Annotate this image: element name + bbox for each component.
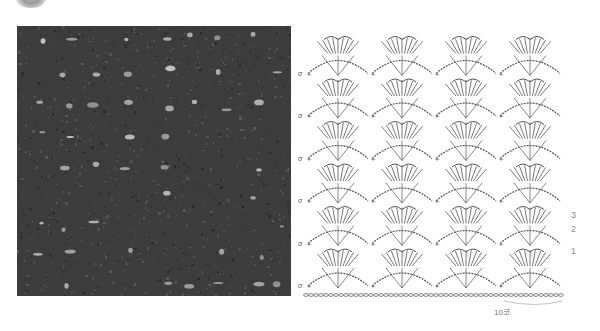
svg-text:σ: σ — [298, 155, 303, 162]
svg-text:σ: σ — [298, 282, 303, 289]
svg-text:+: + — [307, 241, 311, 248]
circular-logo-icon — [14, 0, 48, 8]
svg-text:+: + — [307, 71, 311, 78]
row-number-3: 3 — [571, 210, 576, 220]
svg-text:+: + — [371, 198, 375, 205]
svg-text:+: + — [435, 283, 439, 290]
swatch-texture — [17, 26, 291, 296]
swatch-photo — [17, 26, 291, 296]
stitch-diagram: ++++σ++++σ++++σ++++σ++++σ++++σ — [298, 18, 588, 318]
svg-text:+: + — [499, 113, 503, 120]
svg-text:+: + — [307, 156, 311, 163]
svg-text:σ: σ — [298, 70, 303, 77]
svg-text:+: + — [435, 113, 439, 120]
svg-text:+: + — [499, 156, 503, 163]
svg-text:+: + — [499, 71, 503, 78]
svg-text:+: + — [371, 156, 375, 163]
svg-text:+: + — [371, 283, 375, 290]
svg-text:+: + — [435, 156, 439, 163]
svg-text:+: + — [307, 198, 311, 205]
svg-text:+: + — [371, 241, 375, 248]
row-number-2: 2 — [571, 224, 576, 234]
svg-text:σ: σ — [298, 112, 303, 119]
svg-text:σ: σ — [298, 240, 303, 247]
svg-text:+: + — [307, 113, 311, 120]
svg-text:+: + — [499, 241, 503, 248]
svg-text:+: + — [307, 283, 311, 290]
svg-text:σ: σ — [298, 197, 303, 204]
repeat-width-label: 10코 — [494, 306, 510, 317]
svg-text:+: + — [435, 71, 439, 78]
row-number-1: 1 — [571, 246, 576, 256]
svg-text:+: + — [435, 241, 439, 248]
crochet-chart: ++++σ++++σ++++σ++++σ++++σ++++σ — [298, 18, 588, 318]
svg-text:+: + — [371, 71, 375, 78]
svg-text:+: + — [435, 198, 439, 205]
svg-text:+: + — [499, 198, 503, 205]
svg-text:+: + — [371, 113, 375, 120]
svg-text:+: + — [499, 283, 503, 290]
